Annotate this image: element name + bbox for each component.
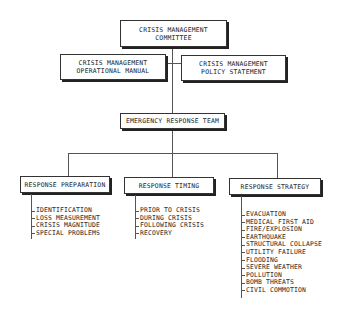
strategy-label: RESPONSE STRATEGY [241,183,310,191]
strategy-list: EVACUATION MEDICAL FIRST AID FIRE/EXPLOS… [241,211,322,295]
response-strategy-box: RESPONSE STRATEGY [229,178,321,195]
crisis-management-committee-box: CRISIS MANAGEMENT COMMITTEE [120,20,227,47]
root-label-line1: CRISIS MANAGEMENT [139,26,208,34]
policy-statement-box: CRISIS MANAGEMENT POLICY STATEMENT [181,55,286,81]
root-label-line2: COMMITTEE [155,34,191,42]
preparation-list: IDENTIFICATION LOSS MEASUREMENT CRISIS M… [31,207,100,237]
list-item: RECOVERY [135,230,204,238]
list-item: CIVIL COMMOTION [241,287,322,295]
connector-to-timing [172,153,173,177]
preparation-label: RESPONSE PREPARATION [25,181,106,189]
policy-statement-line2: POLICY STATEMENT [201,68,266,76]
operational-manual-line1: CRISIS MANAGEMENT [79,59,148,67]
response-preparation-box: RESPONSE PREPARATION [20,176,110,193]
policy-statement-line1: CRISIS MANAGEMENT [199,60,268,68]
connector-team-to-bar [172,129,173,153]
connector-to-preparation [68,153,69,176]
operational-manual-line2: OPERATIONAL MANUAL [77,67,150,75]
connector-side-boxes [166,63,181,64]
connector-to-strategy [277,153,278,178]
list-item: SPECIAL PROBLEMS [31,230,100,238]
response-timing-box: RESPONSE TIMING [124,177,214,194]
operational-manual-box: CRISIS MANAGEMENT OPERATIONAL MANUAL [60,54,166,80]
timing-label: RESPONSE TIMING [139,182,200,190]
connector-root-to-team [172,47,173,113]
timing-list: PRIOR TO CRISIS DURING CRISIS FOLLOWING … [135,207,204,237]
team-label: EMERGENCY RESPONSE TEAM [126,117,219,125]
emergency-response-team-box: EMERGENCY RESPONSE TEAM [120,113,225,129]
